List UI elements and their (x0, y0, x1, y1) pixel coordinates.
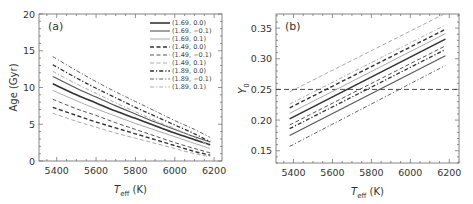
series-line (53, 84, 210, 145)
panel-a-age-vs-teff: 5400560058006000620005101520Teff (K)Age … (8, 9, 226, 198)
y-tick-label: 0.15 (251, 145, 272, 156)
panel-label: (b) (285, 20, 301, 33)
legend-label: (1.89, −0.1) (172, 75, 211, 83)
panel-label: (a) (48, 20, 63, 33)
x-tick-label: 6000 (163, 165, 187, 176)
y-tick-label: 0.20 (251, 115, 272, 126)
y-axis-label: Y0 (237, 83, 251, 94)
series-line (290, 39, 446, 119)
x-axis-label: Teff (K) (351, 186, 384, 200)
figure: 5400560058006000620005101520Teff (K)Age … (0, 0, 473, 204)
series-line (290, 34, 446, 114)
legend-label: (1.49, −0.1) (172, 51, 211, 59)
y-tick-label: 10 (23, 82, 35, 93)
legend-label: (1.69, 0.0) (172, 19, 206, 27)
legend-label: (1.49, 0.1) (172, 59, 206, 67)
y-tick-label: 20 (23, 9, 35, 20)
x-tick-label: 5800 (359, 167, 383, 178)
legend-label: (1.89, 0.0) (172, 67, 206, 75)
y-tick-label: 0.35 (251, 23, 272, 34)
series-line (290, 13, 446, 91)
legend-label: (1.89, 0.1) (172, 83, 206, 91)
legend-label: (1.69, 0.1) (172, 35, 206, 43)
x-tick-label: 5400 (281, 167, 305, 178)
series-line (290, 66, 446, 147)
panel-b-y0-vs-teff: 540056005800600062000.150.200.250.300.35… (237, 13, 461, 199)
y-tick-label: 15 (23, 45, 35, 56)
chart-canvas: 5400560058006000620005101520Teff (K)Age … (0, 0, 473, 204)
series-line (53, 113, 210, 156)
x-tick-label: 6000 (398, 167, 422, 178)
y-tick-label: 0.30 (251, 53, 272, 64)
x-tick-label: 5800 (123, 165, 147, 176)
x-tick-label: 6200 (437, 167, 461, 178)
y-axis-label: Age (Gyr) (8, 63, 19, 111)
x-axis-label: Teff (K) (114, 184, 147, 198)
legend: (1.69, 0.0)(1.69, −0.1)(1.69, 0.1)(1.49,… (150, 19, 211, 91)
y-tick-label: 0 (29, 156, 35, 167)
series-line (290, 25, 446, 104)
legend-label: (1.69, −0.1) (172, 27, 211, 35)
y-tick-label: 0.25 (251, 84, 272, 95)
legend-label: (1.49, 0.0) (172, 43, 206, 51)
x-tick-label: 5600 (320, 167, 344, 178)
series-line (53, 107, 210, 155)
x-tick-label: 5600 (84, 165, 108, 176)
x-tick-label: 6200 (202, 165, 226, 176)
series-line (290, 46, 446, 125)
x-tick-label: 5400 (45, 165, 69, 176)
y-tick-label: 5 (29, 119, 35, 130)
